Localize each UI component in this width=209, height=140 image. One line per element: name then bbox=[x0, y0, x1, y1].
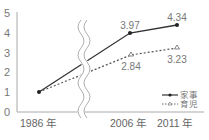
marker-ikuji-2006-triangle-icon bbox=[129, 52, 134, 56]
y-tick-4: 4 bbox=[4, 27, 10, 39]
series-ikuji-line bbox=[39, 48, 177, 92]
legend: 家事 育児 bbox=[162, 90, 198, 109]
x-label-1986: 1986 年 bbox=[20, 117, 56, 129]
label-kaji-2011: 4.34 bbox=[167, 12, 187, 23]
line-chart: 5 4 3 2 1 0 1986 年 2006 年 2011 年 3.97 4.… bbox=[0, 0, 209, 140]
y-tick-1: 1 bbox=[4, 86, 10, 98]
marker-1986 bbox=[37, 90, 41, 94]
y-tick-2: 2 bbox=[4, 66, 10, 78]
x-label-2011: 2011 年 bbox=[157, 117, 193, 129]
y-tick-3: 3 bbox=[4, 47, 10, 59]
x-label-2006: 2006 年 bbox=[110, 117, 146, 129]
y-tick-0: 0 bbox=[4, 106, 10, 118]
y-tick-5: 5 bbox=[4, 7, 10, 19]
legend-ikuji-label: 育児 bbox=[180, 99, 198, 109]
label-ikuji-2011: 3.23 bbox=[167, 54, 187, 65]
legend-kaji-marker-icon bbox=[168, 93, 171, 96]
marker-kaji-2006 bbox=[128, 31, 132, 35]
label-kaji-2006: 3.97 bbox=[120, 20, 140, 31]
label-ikuji-2006: 2.84 bbox=[121, 61, 141, 72]
y-tick-labels: 5 4 3 2 1 0 bbox=[4, 7, 10, 118]
axis-break-icon bbox=[78, 20, 90, 118]
marker-ikuji-2011-triangle-icon bbox=[175, 45, 180, 49]
marker-kaji-2011 bbox=[175, 23, 179, 27]
series-kaji-line bbox=[39, 25, 177, 92]
